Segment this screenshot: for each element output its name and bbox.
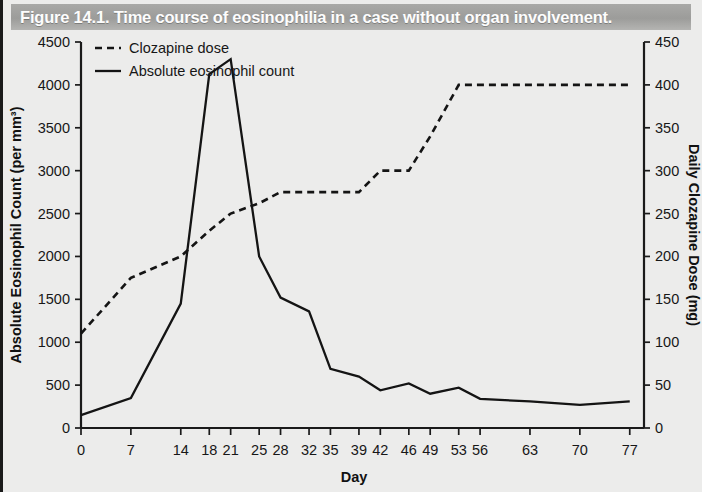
y-axis-left-tick-label: 4000 [38, 77, 70, 93]
chart-plot-area: 050010001500200025003000350040004500 050… [3, 30, 702, 492]
y-axis-right-tick-label: 0 [655, 420, 663, 436]
series-clozapine-dose [81, 85, 630, 334]
x-axis-tick-label: 25 [251, 442, 267, 458]
x-axis-tick-label: 53 [451, 442, 467, 458]
y-axis-right-ticks: 050100150200250300350400450 [644, 34, 679, 436]
y-axis-left-tick-label: 3000 [38, 163, 70, 179]
x-axis-tick-label: 42 [372, 442, 388, 458]
figure-title-banner: Figure 14.1. Time course of eosinophilia… [11, 4, 691, 30]
x-axis-tick-label: 28 [272, 442, 288, 458]
x-axis-tick-label: 77 [622, 442, 638, 458]
y-axis-right-tick-label: 250 [655, 206, 679, 222]
y-axis-left-tick-label: 1000 [38, 334, 70, 350]
eosinophilia-time-course-chart: 050010001500200025003000350040004500 050… [3, 30, 702, 492]
y-axis-right-tick-label: 400 [655, 77, 679, 93]
y-axis-left-tick-label: 3500 [38, 120, 70, 136]
y-axis-left-tick-label: 2500 [38, 206, 70, 222]
y-axis-right-tick-label: 300 [655, 163, 679, 179]
x-axis-tick-label: 63 [522, 442, 538, 458]
x-axis-tick-label: 35 [322, 442, 338, 458]
y-axis-left-tick-label: 2000 [38, 248, 70, 264]
y-axis-right-tick-label: 150 [655, 291, 679, 307]
y-axis-left-title: Absolute Eosinophil Count (per mm³) [8, 106, 24, 363]
x-axis-tick-label: 49 [422, 442, 438, 458]
y-axis-right-tick-label: 50 [655, 377, 671, 393]
y-axis-right-tick-label: 200 [655, 248, 679, 264]
x-axis-ticks: 0714182125283235394246495356637077 [77, 428, 638, 458]
y-axis-left-tick-label: 500 [46, 377, 70, 393]
x-axis-title: Day [341, 469, 368, 485]
x-axis-tick-label: 32 [301, 442, 317, 458]
legend-label-eosinophil-count: Absolute eosinophil count [129, 63, 294, 79]
x-axis-tick-label: 56 [472, 442, 488, 458]
chart-legend: Clozapine dose Absolute eosinophil count [95, 40, 294, 79]
x-axis-tick-label: 14 [173, 442, 189, 458]
figure-container: Figure 14.1. Time course of eosinophilia… [0, 0, 702, 492]
y-axis-left-ticks: 050010001500200025003000350040004500 [38, 34, 81, 436]
x-axis-tick-label: 70 [572, 442, 588, 458]
y-axis-right-tick-label: 100 [655, 334, 679, 350]
x-axis-tick-label: 7 [127, 442, 135, 458]
x-axis-tick-label: 46 [401, 442, 417, 458]
y-axis-left-tick-label: 4500 [38, 34, 70, 50]
x-axis-tick-label: 39 [351, 442, 367, 458]
y-axis-right-title: Daily Clozapine Dose (mg) [686, 144, 702, 326]
figure-title-text: Figure 14.1. Time course of eosinophilia… [20, 8, 612, 27]
y-axis-left-tick-label: 0 [62, 420, 70, 436]
x-axis-tick-label: 0 [77, 442, 85, 458]
x-axis-tick-label: 21 [223, 442, 239, 458]
y-axis-left-tick-label: 1500 [38, 291, 70, 307]
series-absolute-eosinophil-count [81, 59, 630, 415]
y-axis-right-tick-label: 450 [655, 34, 679, 50]
x-axis-tick-label: 18 [201, 442, 217, 458]
legend-label-clozapine-dose: Clozapine dose [129, 40, 229, 56]
y-axis-right-tick-label: 350 [655, 120, 679, 136]
